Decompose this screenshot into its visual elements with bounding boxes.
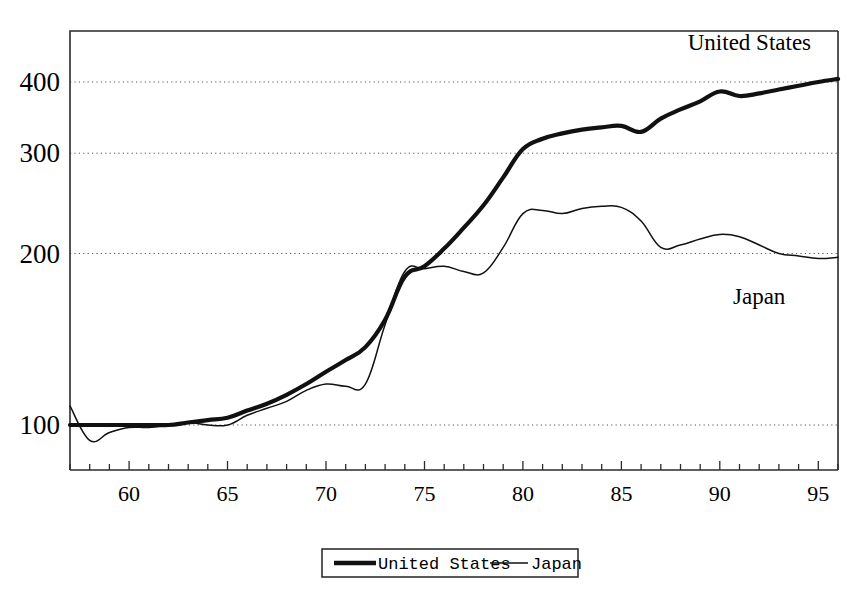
y-tick-label-400: 400 [20,67,61,97]
annotation-united-states: United States [688,30,811,55]
legend-label-united-states: United States [378,555,511,574]
chart-figure: 1002003004006065707580859095United State… [0,0,858,604]
series-line-united-states [70,79,838,425]
x-tick-label-85: 85 [610,481,632,506]
x-tick-label-65: 65 [217,481,239,506]
x-tick-label-60: 60 [118,481,140,506]
y-tick-label-100: 100 [20,410,61,440]
line-chart: 1002003004006065707580859095United State… [0,0,858,604]
annotation-japan: Japan [733,284,786,309]
axis-frame [70,31,838,470]
x-tick-label-80: 80 [512,481,534,506]
legend-label-japan: Japan [531,555,582,574]
x-tick-label-95: 95 [807,481,829,506]
x-tick-label-75: 75 [414,481,436,506]
y-tick-label-300: 300 [20,138,61,168]
x-tick-label-90: 90 [709,481,731,506]
y-tick-label-200: 200 [20,239,61,269]
x-tick-label-70: 70 [315,481,337,506]
